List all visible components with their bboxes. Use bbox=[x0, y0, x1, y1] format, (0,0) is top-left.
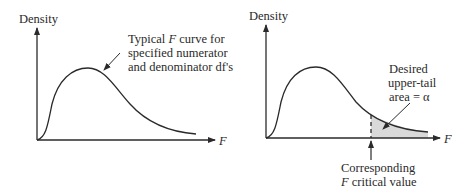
left-annotation-arrow bbox=[104, 53, 120, 70]
left-y-axis-label: Density bbox=[19, 12, 59, 26]
upper-tail-shaded-area bbox=[371, 115, 428, 138]
left-annotation: Typical F curve for specified numerator … bbox=[128, 32, 233, 74]
tail-annotation-arrow bbox=[383, 103, 410, 129]
left-x-axis-label: F bbox=[218, 134, 227, 148]
tail-annotation: Desired upper-tail area = α bbox=[388, 62, 439, 104]
right-panel: Density F Desired upper-tail area = α Co… bbox=[249, 9, 452, 189]
left-f-curve bbox=[37, 68, 196, 140]
f-distribution-diagram: Density F Typical F curve for specified … bbox=[0, 0, 476, 194]
right-y-axis-label: Density bbox=[249, 9, 289, 23]
right-x-axis-label: F bbox=[443, 132, 452, 146]
critical-value-annotation: Corresponding F critical value bbox=[340, 161, 418, 189]
left-panel: Density F Typical F curve for specified … bbox=[19, 12, 233, 148]
